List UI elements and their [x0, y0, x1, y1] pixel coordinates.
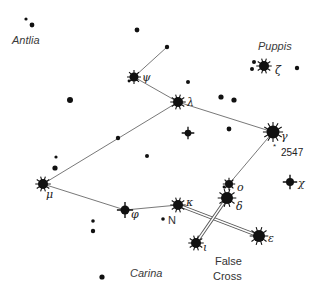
star-dot-icon	[231, 97, 236, 102]
star-dot-icon	[52, 165, 57, 170]
star-dot-icon	[54, 155, 57, 158]
constellation-label-antlia: Antlia	[11, 34, 40, 46]
star-label-phi: φ	[131, 208, 139, 221]
star-dot-icon	[135, 28, 140, 33]
star-dot-icon	[250, 67, 254, 71]
false-cross-label-line1: False	[215, 255, 242, 267]
star-dot-icon	[227, 127, 232, 132]
star-label-omicron: o	[237, 181, 244, 194]
constellation-line	[229, 132, 273, 184]
star-mu: μ	[35, 177, 53, 201]
constellation-line	[134, 77, 178, 102]
star-burst-icon	[127, 70, 141, 84]
star-burst-icon	[223, 178, 235, 190]
star-label-kappa: κ	[185, 196, 194, 209]
ngc2547-label: 2547	[281, 147, 304, 158]
star-dot-icon	[145, 154, 149, 158]
star-label-chi: χ	[297, 177, 306, 190]
four-point-star-icon	[182, 127, 195, 140]
star-label-psi: ψ	[142, 71, 151, 84]
star-dot-icon	[67, 97, 73, 103]
star-dot-icon	[218, 94, 223, 99]
star-zeta: ζ	[256, 59, 282, 77]
star-dot-icon	[30, 23, 35, 28]
constellation-line	[43, 102, 178, 184]
star-burst-icon	[218, 189, 237, 207]
star-iota: ι	[188, 236, 207, 254]
star-label-lambda: λ	[186, 96, 194, 109]
constellation-label-carina: Carina	[130, 267, 162, 279]
star-dot-icon	[165, 45, 169, 49]
star-chart: ψλζγμφκoδχει Antlia Puppis Carina False …	[0, 0, 328, 299]
star-dot-icon	[116, 136, 120, 140]
star-phi: φ	[117, 202, 139, 221]
star-omicron: o	[223, 178, 244, 194]
star-dot-icon	[24, 17, 27, 20]
star-label-gamma: γ	[281, 130, 288, 143]
star-dot-icon	[252, 60, 256, 64]
star-dot-icon	[295, 66, 299, 70]
star-dot-icon	[186, 80, 190, 84]
constellation-line	[43, 184, 125, 210]
star-label-iota: ι	[203, 241, 207, 254]
star-burst-icon	[170, 198, 186, 213]
star-label-delta: δ	[236, 200, 243, 213]
star-label-n: N	[168, 214, 176, 226]
star-lambda: λ	[170, 95, 194, 110]
ngc2547-marker-icon: *	[273, 142, 276, 151]
star-epsilon: ε	[250, 227, 274, 245]
star-dot-icon	[91, 219, 95, 223]
star-label-zeta: ζ	[275, 64, 282, 77]
star-chi: χ	[283, 175, 306, 190]
star-label-epsilon: ε	[268, 232, 274, 245]
false-cross-label-line2: Cross	[213, 270, 242, 282]
star-burst-icon	[250, 227, 269, 245]
star-dot-icon	[91, 229, 95, 233]
star-label-mu: μ	[46, 188, 53, 201]
constellation-label-puppis: Puppis	[258, 40, 292, 52]
star-burst-icon	[283, 175, 297, 189]
four-point-stars	[182, 127, 195, 140]
star-dot-icon	[161, 217, 165, 221]
star-burst-icon	[256, 59, 272, 74]
star-burst-icon	[170, 95, 186, 110]
star-dot-icon	[99, 274, 104, 279]
